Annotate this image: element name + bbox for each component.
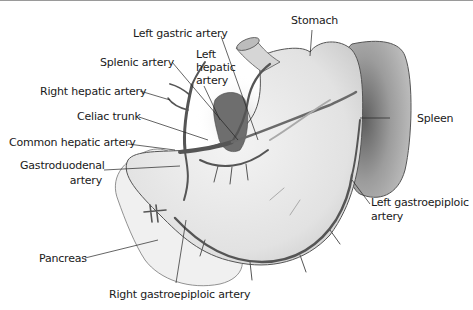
label-gastroduodenal-artery-line2: artery bbox=[20, 174, 102, 187]
label-left-hepatic-artery-line2: hepatic bbox=[196, 61, 235, 74]
label-left-gastric-artery: Left gastric artery bbox=[133, 27, 228, 40]
label-common-hepatic-artery: Common hepatic artery bbox=[9, 136, 136, 149]
label-splenic-artery: Splenic artery bbox=[100, 56, 174, 69]
label-pancreas: Pancreas bbox=[39, 252, 87, 265]
label-right-gastroepiploic-artery: Right gastroepiploic artery bbox=[109, 288, 250, 301]
label-left-gastroepiploic-artery-line2: artery bbox=[371, 210, 403, 223]
label-right-hepatic-artery: Right hepatic artery bbox=[40, 85, 146, 98]
label-left-hepatic-artery-line3: artery bbox=[196, 74, 228, 87]
label-left-gastroepiploic-artery-line1: Left gastroepiploic bbox=[371, 196, 469, 209]
label-gastroduodenal-artery-line1: Gastroduodenal bbox=[20, 159, 102, 172]
label-stomach: Stomach bbox=[291, 14, 338, 27]
label-celiac-trunk: Celiac trunk bbox=[77, 110, 141, 123]
label-left-hepatic-artery-line1: Left bbox=[196, 48, 216, 61]
label-spleen: Spleen bbox=[417, 112, 453, 125]
